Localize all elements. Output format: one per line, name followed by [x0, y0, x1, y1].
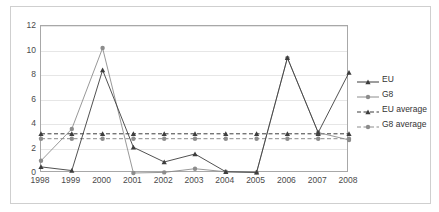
data-point-marker — [70, 137, 74, 141]
y-axis-tick-label: 2 — [2, 143, 36, 152]
series-lines — [41, 26, 349, 173]
data-point-marker — [39, 137, 43, 141]
data-point-marker — [162, 170, 166, 174]
data-point-marker — [100, 137, 104, 141]
x-axis-tick-label: 2008 — [339, 176, 358, 185]
y-axis-tick-label: 8 — [2, 70, 36, 79]
legend-swatch-eu-average — [357, 104, 379, 116]
series-eu-average — [38, 131, 351, 136]
data-point-marker — [39, 159, 43, 163]
legend-label-g8-average: G8 average — [382, 120, 426, 129]
x-axis-tick-label: 2002 — [154, 176, 173, 185]
data-point-marker — [100, 68, 105, 73]
x-axis-tick-label: 2003 — [185, 176, 204, 185]
data-point-marker — [366, 94, 370, 98]
x-axis-tick-label: 2001 — [123, 176, 142, 185]
legend-swatch-g8-average — [357, 119, 379, 131]
data-point-marker — [316, 137, 320, 141]
data-point-marker — [192, 151, 197, 156]
x-axis-tick-label: 2000 — [92, 176, 111, 185]
data-point-marker — [366, 124, 370, 128]
y-axis-tick-label: 6 — [2, 94, 36, 103]
plot-area — [40, 25, 348, 172]
x-axis-tick-label: 2005 — [246, 176, 265, 185]
legend-item-eu-average[interactable]: EU average — [357, 102, 431, 117]
series-eu — [38, 55, 351, 174]
x-axis-tick-label: 1999 — [61, 176, 80, 185]
x-axis-tick-label: 1998 — [31, 176, 50, 185]
legend-item-eu[interactable]: EU — [357, 72, 431, 87]
legend-label-eu: EU — [382, 75, 394, 84]
data-point-marker — [347, 138, 351, 142]
x-axis: 1998199920002001200220032004200520062007… — [40, 176, 348, 190]
x-axis-tick-label: 2004 — [215, 176, 234, 185]
data-point-marker — [193, 137, 197, 141]
data-point-marker — [254, 137, 258, 141]
x-axis-tick-label: 2007 — [308, 176, 327, 185]
data-point-marker — [100, 46, 104, 50]
series-g8-average — [39, 137, 351, 141]
data-point-marker — [224, 137, 228, 141]
y-axis-tick-label: 12 — [2, 21, 36, 30]
legend-label-g8: G8 — [382, 90, 393, 99]
data-point-marker — [346, 70, 351, 75]
line-chart-figure: 024681012 199819992000200120022003200420… — [0, 0, 439, 212]
data-point-marker — [162, 137, 166, 141]
legend-label-eu-average: EU average — [382, 105, 427, 114]
y-axis-tick-label: 10 — [2, 45, 36, 54]
data-point-marker — [285, 137, 289, 141]
data-point-marker — [131, 145, 136, 150]
legend-swatch-g8 — [357, 89, 379, 101]
legend-item-g8-average[interactable]: G8 average — [357, 117, 431, 132]
x-axis-tick-label: 2006 — [277, 176, 296, 185]
data-point-marker — [193, 167, 197, 171]
legend-swatch-eu — [357, 74, 379, 86]
data-point-marker — [70, 127, 74, 131]
y-axis-tick-label: 4 — [2, 119, 36, 128]
y-axis: 024681012 — [0, 25, 36, 172]
chart-legend: EU G8 EU average G8 average — [357, 72, 431, 132]
legend-item-g8[interactable]: G8 — [357, 87, 431, 102]
data-point-marker — [131, 137, 135, 141]
